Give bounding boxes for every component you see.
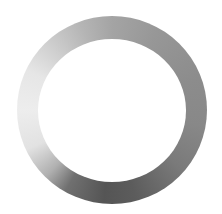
ring-center-hole	[38, 39, 186, 182]
image-subject: metal ring washer	[0, 0, 1, 1]
image-canvas: metal ring washer	[0, 0, 222, 214]
